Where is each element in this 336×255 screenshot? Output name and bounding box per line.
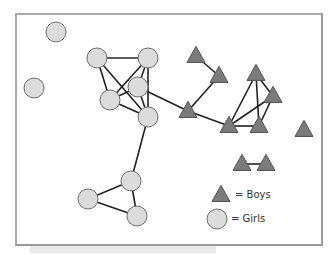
legend-boy-triangle-icon xyxy=(212,185,230,201)
girl-node-icon xyxy=(138,107,158,127)
girl-node-icon xyxy=(78,189,98,209)
boy-node-icon xyxy=(247,64,265,80)
boy-node-icon xyxy=(187,46,205,62)
legend-girl-circle-icon xyxy=(207,209,227,229)
legend-boys-label: = Boys xyxy=(235,189,271,200)
girl-node-icon xyxy=(24,78,44,98)
boy-node-icon xyxy=(233,154,251,170)
legend-girls-label: = Girls xyxy=(231,213,265,224)
legend-symbols xyxy=(207,185,230,229)
girl-node-icon xyxy=(46,22,66,42)
girl-node-icon xyxy=(127,206,147,226)
boy-node-icon xyxy=(250,116,268,132)
girl-node-icon xyxy=(100,90,120,110)
edge-B6-B3 xyxy=(229,74,256,126)
boy-node-icon xyxy=(257,154,275,170)
girl-node-icon xyxy=(128,77,148,97)
friendship-network xyxy=(0,0,336,255)
boy-node-icon xyxy=(295,120,313,136)
boy-node-icon xyxy=(210,66,228,82)
girl-node-icon xyxy=(138,48,158,68)
girl-node-icon xyxy=(121,171,141,191)
girl-node-icon xyxy=(87,48,107,68)
